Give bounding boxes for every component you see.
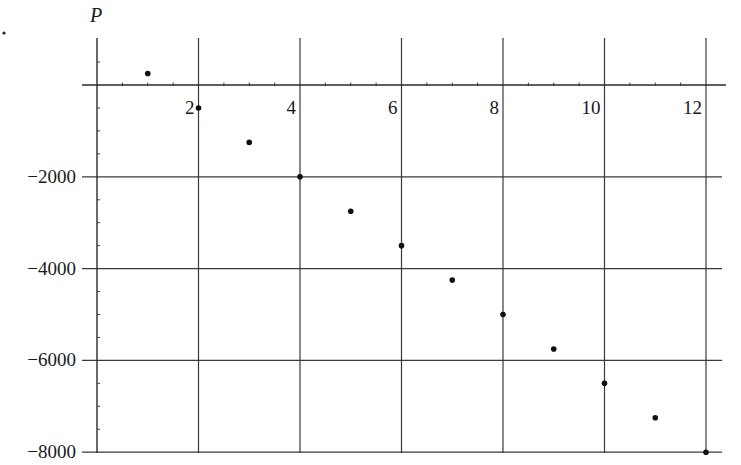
x-tick-label: 4 <box>287 97 297 118</box>
data-point <box>449 277 455 283</box>
y-tick-label: −6000 <box>27 349 76 370</box>
y-axis-title: P <box>89 4 102 26</box>
data-point <box>602 381 608 387</box>
data-point <box>348 208 354 214</box>
data-point <box>500 312 506 318</box>
data-point <box>652 415 658 421</box>
data-points <box>145 71 709 455</box>
x-tick-label: 6 <box>388 97 398 118</box>
y-tick-label: −8000 <box>27 441 76 462</box>
data-point <box>297 174 303 180</box>
scatter-chart: 24681012 −2000−4000−6000−8000 P <box>0 0 741 465</box>
y-tick-label: −4000 <box>27 258 76 279</box>
x-tick-label: 2 <box>185 97 195 118</box>
data-point <box>196 105 202 111</box>
y-tick-label: −2000 <box>27 166 76 187</box>
data-point <box>399 243 405 249</box>
data-point <box>246 140 252 146</box>
x-tick-labels: 24681012 <box>185 97 702 118</box>
data-point <box>703 449 709 455</box>
data-point <box>551 346 557 352</box>
data-point <box>145 71 151 77</box>
stray-dot <box>2 31 5 34</box>
y-tick-labels: −2000−4000−6000−8000 <box>27 166 76 462</box>
x-tick-label: 8 <box>490 97 500 118</box>
x-tick-label: 12 <box>683 97 702 118</box>
x-tick-label: 10 <box>582 97 601 118</box>
